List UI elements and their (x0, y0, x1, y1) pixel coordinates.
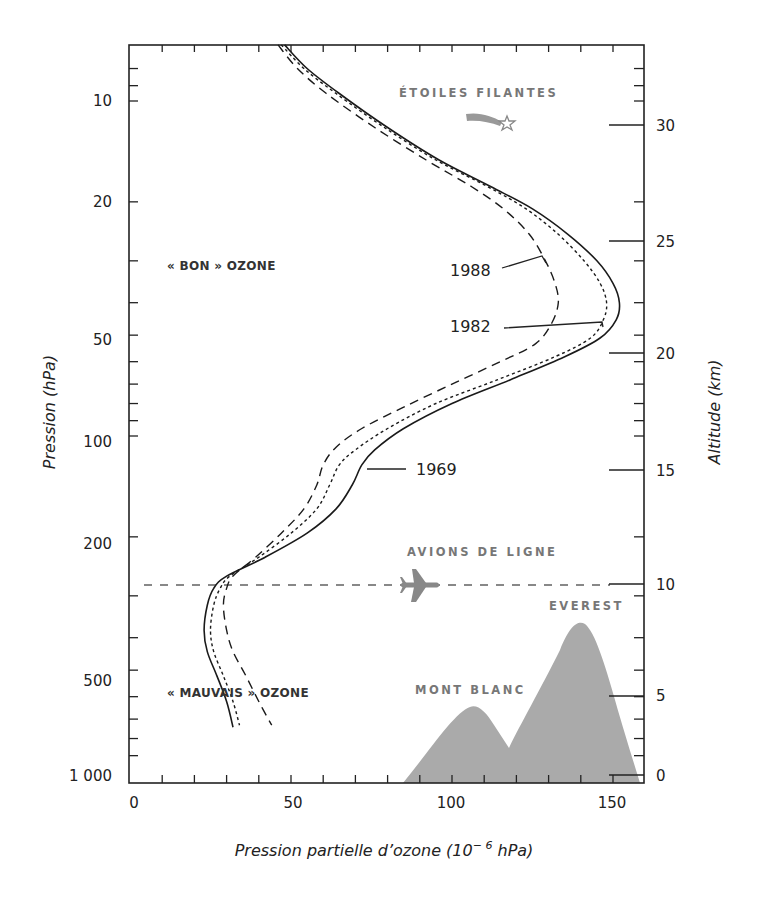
x-tick-150: 150 (598, 794, 627, 812)
y2-axis-title: Altitude (km) (705, 360, 724, 466)
leader-1982 (504, 322, 603, 328)
y2-tick-15: 15 (656, 462, 675, 480)
y2-tick-20: 20 (656, 345, 675, 363)
x-axis-title: Pression partielle d’ozone (10− 6 hPa) (235, 839, 534, 860)
y2-tick-25: 25 (656, 233, 675, 251)
series-layer (204, 45, 620, 727)
x-tick-100: 100 (437, 794, 466, 812)
everest-label: EVEREST (549, 599, 624, 613)
airplane-icon (400, 569, 439, 602)
mountains-silhouette (403, 623, 640, 783)
left-axis-labels: 10 20 50 100 200 500 1 000 (69, 92, 112, 785)
y-tick-50: 50 (93, 331, 112, 349)
series-1982-line (211, 45, 607, 725)
bad-ozone-label: « MAUVAIS » OZONE (167, 686, 309, 700)
bottom-axis-labels: 0 50 100 150 (129, 794, 626, 812)
series-1969-line (204, 45, 620, 727)
y-tick-1000: 1 000 (69, 767, 112, 785)
y2-tick-0: 0 (656, 767, 666, 785)
series-1988-line (223, 45, 558, 725)
y-tick-20: 20 (93, 193, 112, 211)
y-tick-100: 100 (83, 433, 112, 451)
right-axis-labels: 0 5 10 15 20 25 30 (656, 117, 675, 785)
y-tick-10: 10 (93, 92, 112, 110)
ozone-profile-chart: 10 20 50 100 200 500 1 000 0 5 10 15 20 … (0, 0, 771, 908)
airliners-label: AVIONS DE LIGNE (407, 545, 557, 559)
y2-tick-30: 30 (656, 117, 675, 135)
label-1988: 1988 (450, 261, 491, 280)
y-tick-200: 200 (83, 535, 112, 553)
x-tick-50: 50 (283, 794, 302, 812)
leader-1988 (502, 256, 546, 268)
shooting-stars-label: ÉTOILES FILANTES (399, 85, 558, 100)
y-axis-title: Pression (hPa) (40, 355, 59, 469)
y-tick-500: 500 (83, 672, 112, 690)
label-1969: 1969 (416, 460, 457, 479)
mont-blanc-label: MONT BLANC (415, 683, 526, 697)
y2-tick-10: 10 (656, 576, 675, 594)
label-1982: 1982 (450, 317, 491, 336)
shooting-star-icon (466, 113, 515, 130)
good-ozone-label: « BON » OZONE (167, 259, 276, 273)
y2-tick-5: 5 (656, 687, 666, 705)
x-tick-0: 0 (129, 794, 139, 812)
